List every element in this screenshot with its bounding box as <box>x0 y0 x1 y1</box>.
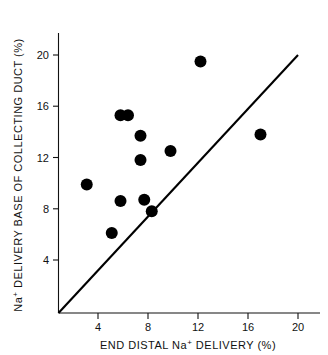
scatter-plot-figure: 20 16 12 8 4 4 8 12 16 20 END DISTAL Na+… <box>0 0 328 355</box>
data-point <box>106 227 118 239</box>
data-points-layer <box>81 55 267 239</box>
data-point <box>195 55 207 67</box>
y-tick-label-16: 16 <box>37 100 49 112</box>
y-tick-label-12: 12 <box>37 152 49 164</box>
data-point <box>81 178 93 190</box>
x-tick-label-12: 12 <box>192 321 204 333</box>
data-point <box>122 109 134 121</box>
data-point <box>146 205 158 217</box>
data-point <box>135 154 147 166</box>
x-tick-label-20: 20 <box>292 321 304 333</box>
y-tick-label-8: 8 <box>43 203 49 215</box>
x-tick-label-8: 8 <box>145 321 151 333</box>
x-axis-title: END DISTAL Na+ DELIVERY (%) <box>100 338 276 351</box>
data-point <box>135 130 147 142</box>
x-tick-label-16: 16 <box>242 321 254 333</box>
y-tick-label-4: 4 <box>43 254 49 266</box>
chart-canvas: 20 16 12 8 4 4 8 12 16 20 END DISTAL Na+… <box>0 0 328 355</box>
x-axis-title-pre: END DISTAL Na <box>100 339 188 351</box>
x-tick-label-4: 4 <box>95 321 101 333</box>
y-axis-group: 20 16 12 8 4 <box>37 33 59 313</box>
data-point <box>255 128 267 140</box>
x-axis-group: 4 8 12 16 20 <box>59 313 321 333</box>
y-axis-title-pre: Na <box>12 296 24 311</box>
x-axis-title-post: DELIVERY (%) <box>192 339 276 351</box>
y-axis-title-post: DELIVERY BASE OF COLLECTING DUCT (%) <box>12 38 24 291</box>
y-tick-label-20: 20 <box>37 49 49 61</box>
data-point <box>115 195 127 207</box>
identity-line <box>59 55 299 313</box>
data-point <box>165 145 177 157</box>
data-point <box>138 194 150 206</box>
y-axis-title: Na+ DELIVERY BASE OF COLLECTING DUCT (%) <box>11 38 24 311</box>
